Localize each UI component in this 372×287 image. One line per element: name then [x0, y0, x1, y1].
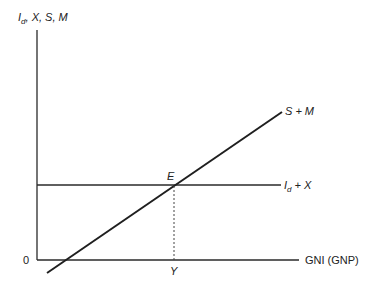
y-axis-label: Id, X, S, M: [18, 11, 69, 26]
origin-label: 0: [23, 254, 29, 266]
s-plus-m-line: [47, 112, 282, 273]
income-determination-diagram: Id, X, S, M 0 GNI (GNP) S + M Id + X E Y: [0, 0, 372, 287]
id-plus-x-label: Id + X: [284, 179, 312, 194]
x-axis-label: GNI (GNP): [305, 254, 359, 266]
equilibrium-income-label: Y: [170, 265, 178, 277]
s-plus-m-label: S + M: [285, 105, 315, 117]
equilibrium-point-label: E: [167, 170, 175, 182]
